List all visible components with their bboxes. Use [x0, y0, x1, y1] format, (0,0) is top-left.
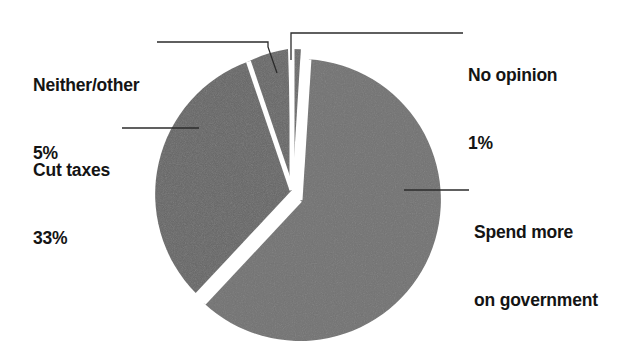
- slice-label-spend-more-text-2: on government: [474, 289, 598, 312]
- slice-label-cut-taxes-value: 33%: [33, 227, 110, 250]
- slice-label-neither-other-text: Neither/other: [33, 74, 139, 97]
- slice-label-cut-taxes-text: Cut taxes: [33, 159, 110, 182]
- slice-label-no-opinion-value: 1%: [468, 132, 557, 155]
- leader-line-no-opinion: [291, 33, 463, 60]
- slice-label-no-opinion-text: No opinion: [468, 64, 557, 87]
- pie-chart: Neither/other 5% Cut taxes 33% No opinio…: [0, 0, 629, 356]
- slice-label-cut-taxes: Cut taxes 33%: [33, 113, 110, 295]
- slice-label-spend-more: Spend more on government programs 61%: [474, 175, 598, 356]
- slice-label-spend-more-text-1: Spend more: [474, 221, 598, 244]
- slice-label-no-opinion: No opinion 1%: [468, 18, 557, 200]
